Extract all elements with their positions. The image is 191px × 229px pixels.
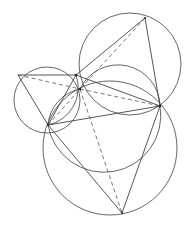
solid-segments <box>18 18 160 213</box>
geometry-diagram <box>0 0 191 229</box>
bottom-circle <box>43 81 177 215</box>
dashed-segments <box>18 18 160 213</box>
